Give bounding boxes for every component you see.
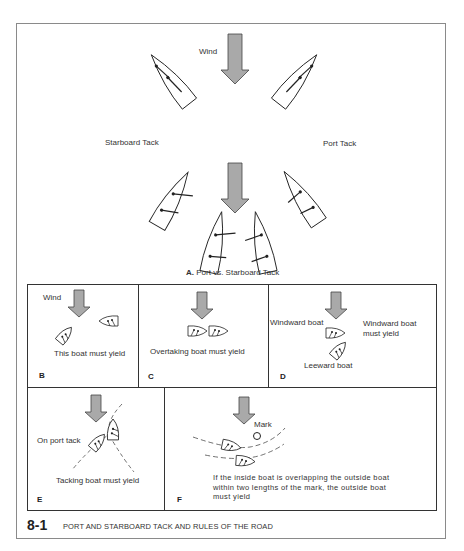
panel-a-diagram [144, 34, 326, 276]
boat-icon [149, 168, 202, 234]
starboard-tack-label: Starboard Tack [105, 138, 159, 148]
panel-d-note-line2: must yield [363, 329, 399, 339]
wind-arrow-icon [68, 290, 90, 317]
boat-icon [55, 324, 75, 345]
boat-icon [200, 210, 239, 276]
panel-e-note: Tacking boat must yield [56, 476, 139, 486]
panel-e-letter: E [37, 495, 42, 504]
boat-icon [144, 49, 196, 109]
on-port-tack-label: On port tack [37, 436, 81, 446]
wind-arrow-icon [221, 34, 249, 84]
panel-b-note: This boat must yield [54, 349, 125, 359]
windward-boat-label: Windward boat [270, 318, 323, 328]
wind-arrow-icon [325, 292, 347, 319]
boat-icon [271, 49, 323, 109]
boat-icon [107, 419, 118, 440]
panel-b-diagram [55, 290, 118, 345]
boat-icon [209, 326, 228, 336]
panel-d-diagram [325, 292, 349, 360]
panel-f-diagram [193, 397, 285, 467]
boat-icon [329, 339, 349, 360]
wind-arrow-icon [191, 292, 213, 319]
boat-icon [240, 210, 277, 276]
panel-b-wind-label: Wind [43, 293, 61, 303]
wind-arrow-icon [233, 397, 255, 424]
panel-f-note: If the inside boat is overlapping the ou… [213, 473, 398, 502]
boat-icon [236, 455, 256, 467]
panel-e-diagram [72, 395, 134, 472]
panel-d-letter: D [280, 372, 286, 381]
boat-icon [326, 328, 345, 338]
boat-icon [221, 439, 242, 453]
boat-icon [188, 326, 207, 336]
wind-label: Wind [199, 47, 217, 57]
panel-c-letter: C [148, 372, 154, 381]
panel-b-letter: B [39, 371, 45, 380]
boat-icon [88, 431, 108, 452]
panel-d-note-line1: Windward boat [363, 319, 416, 329]
panel-f-letter: F [177, 495, 182, 504]
mark-buoy-icon [254, 433, 261, 440]
figure-number: 8-1 [27, 517, 47, 533]
wind-arrow-icon [85, 395, 107, 422]
wind-arrow-icon [221, 163, 249, 213]
boat-icon [99, 316, 118, 326]
panel-c-note: Overtaking boat must yield [150, 347, 245, 357]
panel-a-title: A. Port vs. Starboard Tack [186, 268, 279, 277]
figure-caption: PORT AND STARBOARD TACK AND RULES OF THE… [63, 522, 273, 531]
panel-c-diagram [188, 292, 228, 336]
leeward-boat-label: Leeward boat [304, 361, 352, 371]
mark-label: Mark [254, 420, 272, 430]
port-tack-label: Port Tack [323, 139, 356, 149]
boat-icon [272, 166, 326, 230]
